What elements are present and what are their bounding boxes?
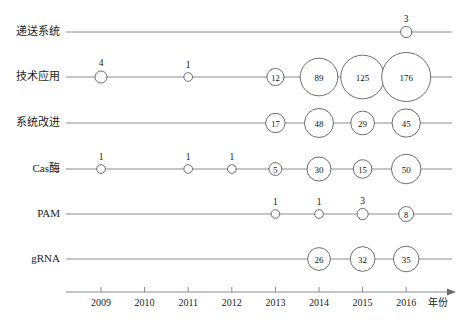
bubble-value-label: 1 [99, 152, 104, 162]
axis-tick-label: 2011 [178, 297, 198, 308]
data-bubble[interactable] [184, 73, 193, 82]
bubble-value-label: 176 [399, 73, 413, 83]
bubble-value-label: 89 [315, 73, 325, 83]
category-label: 递送系统 [16, 24, 60, 37]
category-row: Cas酶1115301550 [33, 152, 453, 184]
bubble-value-label: 48 [315, 119, 325, 129]
axis-title: 年份 [428, 296, 448, 308]
x-axis: 20092010201120122013201420152016年份 [66, 287, 456, 308]
data-bubble[interactable] [357, 208, 368, 219]
category-label: gRNA [31, 252, 60, 264]
axis-arrow-icon [447, 288, 456, 295]
bubble-value-label: 50 [402, 165, 412, 175]
axis-tick-label: 2014 [309, 297, 329, 308]
bubble-value-label: 12 [271, 73, 280, 83]
bubble-value-label: 26 [315, 255, 325, 265]
bubble-value-label: 1 [317, 197, 322, 207]
category-row: gRNA263235 [31, 246, 452, 272]
data-bubble[interactable] [315, 210, 324, 219]
axis-tick-label: 2015 [353, 297, 373, 308]
category-row: 递送系统3 [16, 14, 452, 38]
chart-canvas: 递送系统3技术应用411289125176系统改进17482945Cas酶111… [0, 0, 461, 326]
bubble-value-label: 32 [358, 255, 367, 265]
bubble-value-label: 3 [360, 196, 365, 206]
data-bubble[interactable] [97, 165, 106, 174]
bubble-value-label: 1 [186, 152, 191, 162]
bubble-value-label: 125 [356, 73, 370, 83]
axis-tick-label: 2010 [135, 297, 155, 308]
bubble-value-label: 17 [271, 119, 280, 129]
category-label: 技术应用 [16, 69, 60, 82]
bubble-value-label: 1 [273, 197, 278, 207]
data-bubble[interactable] [271, 210, 280, 219]
axis-tick-label: 2016 [396, 297, 416, 308]
bubble-timeline-chart: 递送系统3技术应用411289125176系统改进17482945Cas酶111… [0, 0, 461, 326]
bubble-value-label: 45 [402, 119, 412, 129]
bubble-value-label: 1 [229, 152, 234, 162]
category-row: PAM1138 [37, 196, 452, 222]
category-rows: 递送系统3技术应用411289125176系统改进17482945Cas酶111… [16, 14, 452, 272]
axis-tick-label: 2012 [222, 297, 242, 308]
bubble-value-label: 1 [186, 60, 191, 70]
bubble-value-label: 30 [315, 165, 325, 175]
data-bubble[interactable] [227, 165, 236, 174]
axis-tick-label: 2009 [91, 297, 111, 308]
bubble-value-label: 4 [99, 58, 104, 68]
bubble-value-label: 5 [273, 165, 277, 175]
data-bubble[interactable] [401, 26, 412, 37]
category-label: 系统改进 [16, 115, 60, 128]
data-bubble[interactable] [184, 165, 193, 174]
category-label: PAM [37, 207, 60, 219]
bubble-value-label: 15 [358, 165, 367, 175]
category-row: 系统改进17482945 [16, 108, 452, 137]
axis-tick-label: 2013 [265, 297, 285, 308]
category-row: 技术应用411289125176 [16, 53, 452, 102]
data-bubble[interactable] [95, 71, 107, 83]
bubble-value-label: 35 [402, 255, 412, 265]
bubble-value-label: 8 [404, 210, 408, 220]
bubble-value-label: 29 [358, 119, 368, 129]
bubble-value-label: 3 [404, 14, 409, 24]
category-label: Cas酶 [33, 162, 61, 174]
